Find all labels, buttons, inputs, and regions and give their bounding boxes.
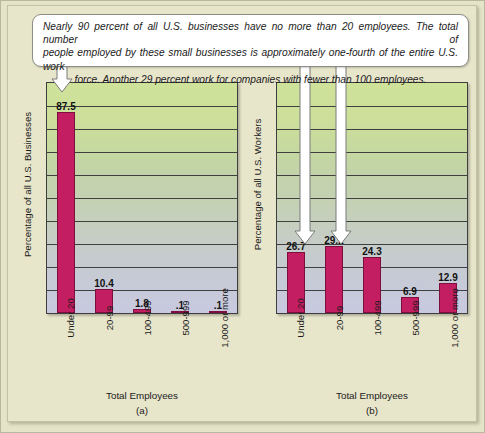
x-tick-label: 500-999: [180, 300, 191, 335]
bar-value-label: 10.4: [94, 278, 113, 289]
chart-b: Percentage of all U.S. Workers 26.729.22…: [248, 68, 476, 413]
x-tick: 500-999: [161, 316, 199, 388]
chart-b-x-axis-label: Total Employees: [276, 390, 468, 401]
x-tick-label: 500-999: [410, 300, 421, 335]
bar-cell: 6.9: [391, 83, 429, 313]
chart-a-subcaption: (a): [46, 405, 238, 416]
x-tick: Under 20: [276, 316, 314, 388]
chart-a-plot-area: 87.510.41.8.1.1: [46, 82, 238, 314]
chart-b-subcaption: (b): [276, 405, 468, 416]
bar: 87.5: [57, 112, 75, 313]
x-tick: 500-999: [391, 316, 429, 388]
callout-line-1: Nearly 90 percent of all U.S. businesses…: [43, 20, 458, 46]
callout-line-3: force. Another 29 percent work for compa…: [43, 73, 458, 86]
callout-box: Nearly 90 percent of all U.S. businesses…: [32, 14, 469, 67]
x-tick: 100-499: [123, 316, 161, 388]
bar-value-label: 12.9: [438, 272, 457, 283]
bar-cell: 10.4: [85, 83, 123, 313]
callout-line-2: people employed by these small businesse…: [43, 46, 458, 72]
x-tick-label: 20-99: [104, 306, 115, 331]
chart-a: Percentage of all U.S. Businesses 87.510…: [18, 68, 246, 413]
chart-a-x-tick-labels: Under 2020-99100-499500-9991,000 or more: [46, 316, 238, 388]
bar-value-label: 24.3: [362, 246, 381, 257]
figure-panel: Nearly 90 percent of all U.S. businesses…: [7, 5, 477, 422]
chart-b-y-axis-label: Percentage of all U.S. Workers: [250, 68, 266, 300]
chart-a-y-axis-label-text: Percentage of all U.S. Businesses: [23, 111, 34, 256]
x-tick-label: 20-99: [334, 306, 345, 331]
x-tick: 1,000 or more: [430, 316, 468, 388]
x-tick-label: 100-499: [142, 300, 153, 335]
figure-root: Nearly 90 percent of all U.S. businesses…: [0, 0, 485, 433]
chart-a-y-axis-label: Percentage of all U.S. Businesses: [20, 68, 36, 300]
x-tick: Under 20: [46, 316, 84, 388]
bar-value-label: 6.9: [403, 286, 417, 297]
x-tick: 100-499: [353, 316, 391, 388]
bar-cell: 1.8: [123, 83, 161, 313]
x-tick-label: 1,000 or more: [449, 288, 460, 348]
x-tick-label: Under 20: [65, 298, 76, 337]
bar-cell: .1: [199, 83, 237, 313]
bar-value-label: 87.5: [56, 101, 75, 112]
bar: 29.2: [325, 246, 343, 313]
chart-a-x-axis-label: Total Employees: [46, 390, 238, 401]
bar-cell: 87.5: [47, 83, 85, 313]
chart-a-bars: 87.510.41.8.1.1: [47, 83, 237, 313]
chart-b-x-tick-labels: Under 2020-99100-499500-9991,000 or more: [276, 316, 468, 388]
chart-b-y-axis-label-text: Percentage of all U.S. Workers: [253, 118, 264, 250]
x-tick-label: Under 20: [295, 298, 306, 337]
x-tick: 20-99: [314, 316, 352, 388]
x-tick: 1,000 or more: [200, 316, 238, 388]
bar-cell: 12.9: [429, 83, 467, 313]
x-tick: 20-99: [84, 316, 122, 388]
bar-cell: .1: [161, 83, 199, 313]
x-tick-label: 100-499: [372, 300, 383, 335]
bar-cell: 24.3: [353, 83, 391, 313]
x-tick-label: 1,000 or more: [219, 288, 230, 348]
